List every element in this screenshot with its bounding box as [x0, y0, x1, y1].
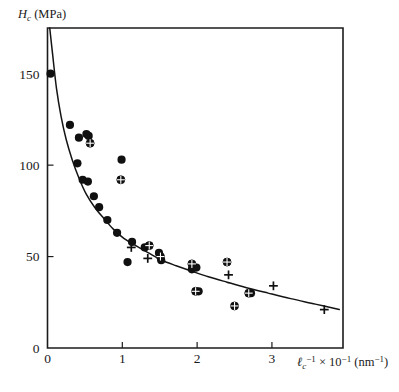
data-point-crossed-circle: [192, 287, 200, 295]
y-axis-ticks: [48, 74, 54, 257]
y-tick-label-50: 50: [26, 249, 40, 264]
data-point-crossed-circle: [86, 139, 94, 147]
scatter-chart-figure: 0123 050100150 Hc (MPa) ℓc−1 × 10−1 (nm−…: [0, 0, 399, 392]
y-tick-label-100: 100: [19, 158, 40, 173]
series-crossed-circle: [86, 139, 253, 310]
x-axis-title-text: ℓc−1 × 10−1 (nm−1): [297, 354, 388, 372]
x-axis-symbol-superscript: −1: [306, 354, 316, 364]
x-axis-unit-open: (nm: [354, 355, 374, 369]
data-point-filled-circle: [117, 156, 125, 164]
data-point-crossed-circle: [145, 242, 153, 250]
data-point-filled-circle: [66, 121, 74, 129]
data-point-plus: [143, 254, 152, 263]
data-point-filled-circle: [90, 192, 98, 200]
x-axis-ticks: [122, 342, 272, 348]
x-axis-scale-exponent: −1: [342, 354, 352, 364]
x-axis-scale-base: 10: [329, 355, 342, 369]
x-tick-label-2: 2: [194, 351, 201, 366]
y-tick-label-0: 0: [33, 341, 40, 356]
data-point-filled-circle: [123, 258, 131, 266]
x-axis-unit-close: ): [384, 355, 388, 369]
data-point-plus: [269, 281, 278, 290]
y-axis-unit: (MPa): [34, 7, 66, 21]
data-point-filled-circle: [85, 132, 93, 140]
x-axis-unit-exponent: −1: [374, 354, 384, 364]
x-tick-label-3: 3: [269, 351, 276, 366]
data-point-filled-circle: [46, 70, 54, 78]
data-series-layer: [46, 70, 328, 314]
x-tick-label-1: 1: [119, 351, 126, 366]
data-point-crossed-circle: [117, 176, 125, 184]
x-axis-title: ℓc−1 × 10−1 (nm−1): [297, 354, 388, 372]
x-tick-label-0: 0: [44, 351, 51, 366]
data-point-crossed-circle: [156, 253, 164, 261]
chart-canvas: 0123 050100150 Hc (MPa) ℓc−1 × 10−1 (nm−…: [0, 0, 399, 392]
data-point-crossed-circle: [188, 260, 196, 268]
data-point-filled-circle: [84, 178, 92, 186]
y-tick-label-150: 150: [19, 67, 40, 82]
y-axis-title-text: Hc (MPa): [17, 7, 66, 23]
y-axis-title: Hc (MPa): [17, 7, 66, 23]
data-point-plus: [224, 270, 233, 279]
data-point-filled-circle: [73, 159, 81, 167]
data-point-filled-circle: [103, 216, 111, 224]
y-axis-tick-labels: 050100150: [19, 67, 40, 356]
data-point-crossed-circle: [223, 258, 231, 266]
data-point-filled-circle: [113, 229, 121, 237]
data-point-filled-circle: [95, 203, 103, 211]
data-point-crossed-circle: [231, 302, 239, 310]
x-axis-tick-labels: 0123: [44, 351, 275, 366]
x-axis-times: ×: [319, 355, 326, 369]
data-point-filled-circle: [75, 134, 83, 142]
data-point-crossed-circle: [245, 289, 253, 297]
